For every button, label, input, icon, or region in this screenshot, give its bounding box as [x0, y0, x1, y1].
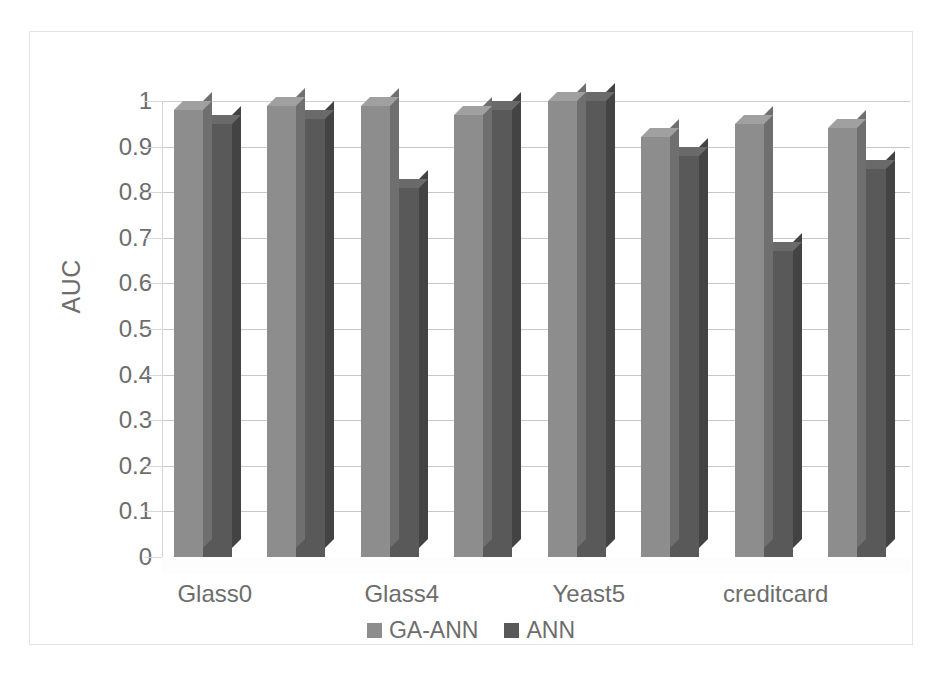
- y-axis-tick-label: 0.9: [90, 135, 152, 159]
- bar-side-face: [325, 101, 334, 548]
- bar-front-face: [267, 106, 296, 557]
- bar-group: [641, 101, 699, 557]
- plot-area: AUC 10.90.80.70.60.50.40.30.20.10 Glass0…: [30, 32, 912, 644]
- bar-side-face: [793, 233, 802, 548]
- bar-side-face: [764, 106, 773, 548]
- bar-side-face: [203, 92, 212, 548]
- y-axis-tick-label: 0: [90, 545, 152, 569]
- x-axis-tick-label: Yeast5: [552, 580, 625, 608]
- chart-legend: GA-ANNANN: [30, 617, 912, 644]
- bar-group: [828, 101, 886, 557]
- bar-ga-ann[interactable]: [641, 137, 670, 557]
- bar-side-face: [390, 88, 399, 548]
- x-axis-tick-labels: Glass0Glass4Yeast5creditcard: [162, 580, 910, 616]
- bar-front-face: [828, 128, 857, 557]
- bar-ga-ann[interactable]: [174, 110, 203, 557]
- legend-label: GA-ANN: [389, 617, 478, 644]
- bar-group: [361, 101, 419, 557]
- bar-side-face: [670, 119, 679, 548]
- y-axis-tick-label: 0.3: [90, 408, 152, 432]
- y-axis-tick-label: 0.7: [90, 226, 152, 250]
- bar-group: [174, 101, 232, 557]
- bar-side-face: [419, 170, 428, 548]
- bar-ga-ann[interactable]: [361, 106, 390, 557]
- bar-side-face: [699, 138, 708, 548]
- bar-ga-ann[interactable]: [267, 106, 296, 557]
- bar-ga-ann[interactable]: [828, 128, 857, 557]
- bar-front-face: [548, 101, 577, 557]
- bar-group: [735, 101, 793, 557]
- bar-ga-ann[interactable]: [454, 115, 483, 557]
- bar-side-face: [886, 151, 895, 548]
- bar-side-face: [483, 97, 492, 548]
- legend-swatch-icon: [367, 623, 382, 638]
- legend-label: ANN: [526, 617, 575, 644]
- bar-side-face: [606, 83, 615, 548]
- bar-side-face: [857, 110, 866, 548]
- bar-ga-ann[interactable]: [548, 101, 577, 557]
- bar-side-face: [512, 92, 521, 548]
- bar-side-face: [296, 88, 305, 548]
- bar-group: [454, 101, 512, 557]
- x-axis-tick-label: Glass4: [364, 580, 439, 608]
- bar-front-face: [735, 124, 764, 557]
- legend-item[interactable]: GA-ANN: [367, 617, 478, 644]
- y-axis-title: AUC: [57, 284, 86, 314]
- legend-swatch-icon: [504, 623, 519, 638]
- bar-front-face: [174, 110, 203, 557]
- bar-front-face: [454, 115, 483, 557]
- y-axis-tick-label: 0.2: [90, 454, 152, 478]
- legend-item[interactable]: ANN: [504, 617, 575, 644]
- x-axis-tick-label: Glass0: [177, 580, 252, 608]
- bar-group: [267, 101, 325, 557]
- bar-series-container: [162, 101, 910, 557]
- bar-front-face: [361, 106, 390, 557]
- bar-front-face: [641, 137, 670, 557]
- y-axis-tick-label: 0.5: [90, 317, 152, 341]
- y-axis-tick-label: 1: [90, 89, 152, 113]
- y-axis-tick-label: 0.4: [90, 363, 152, 387]
- y-axis-tick-label: 0.8: [90, 180, 152, 204]
- chart-container: AUC 10.90.80.70.60.50.40.30.20.10 Glass0…: [29, 31, 913, 645]
- bar-side-face: [232, 106, 241, 548]
- bar-ga-ann[interactable]: [735, 124, 764, 557]
- chart-floor-face: [162, 557, 910, 573]
- chart-floor: [162, 557, 910, 573]
- bar-group: [548, 101, 606, 557]
- y-axis-tick-labels: 10.90.80.70.60.50.40.30.20.10: [90, 101, 152, 557]
- x-axis-tick-label: creditcard: [723, 580, 828, 608]
- bar-side-face: [577, 83, 586, 548]
